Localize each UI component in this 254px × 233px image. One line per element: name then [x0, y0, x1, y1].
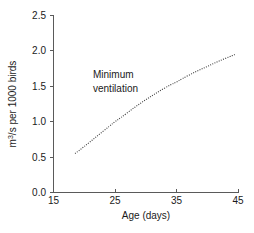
x-tick-label-3: 45: [232, 195, 244, 206]
y-axis-title: m3/s per 1000 birds: [7, 61, 18, 148]
y-axis-title-post: /s per 1000 birds: [7, 61, 18, 136]
y-tick-label-5: 2.5: [32, 10, 46, 21]
x-axis-ticks: [54, 189, 239, 193]
chart-canvas: 0.0 0.5 1.0 1.5 2.0 2.5 15 25 35 45 Age …: [0, 0, 254, 233]
x-axis-tick-labels: 15 25 35 45: [48, 195, 244, 206]
x-axis-title: Age (days): [122, 210, 170, 221]
annotation-line-2: ventilation: [93, 83, 138, 94]
y-axis-title-pre: m: [7, 139, 18, 147]
minimum-ventilation-chart: 0.0 0.5 1.0 1.5 2.0 2.5 15 25 35 45 Age …: [0, 0, 254, 233]
y-tick-label-4: 2.0: [32, 45, 46, 56]
x-tick-label-0: 15: [48, 195, 60, 206]
y-tick-label-3: 1.5: [32, 81, 46, 92]
y-tick-label-0: 0.0: [32, 187, 46, 198]
annotation-line-1: Minimum: [93, 69, 134, 80]
y-axis-tick-labels: 0.0 0.5 1.0 1.5 2.0 2.5: [32, 10, 46, 198]
minimum-ventilation-annotation: Minimum ventilation: [93, 69, 138, 94]
x-tick-label-2: 35: [171, 195, 183, 206]
svg-text:m3/s per 1000 birds: m3/s per 1000 birds: [7, 61, 18, 148]
x-tick-label-1: 25: [109, 195, 121, 206]
y-axis-ticks: [50, 16, 54, 193]
y-tick-label-1: 0.5: [32, 152, 46, 163]
y-tick-label-2: 1.0: [32, 116, 46, 127]
